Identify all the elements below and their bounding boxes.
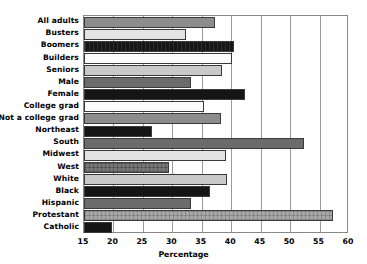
bar-row (84, 210, 347, 222)
bar-row (84, 137, 347, 149)
y-tick-label: All adults (38, 17, 79, 25)
y-tick-label: Hispanic (42, 199, 79, 207)
bar-row (84, 28, 347, 40)
chart-title (0, 0, 367, 10)
x-tick-label: 30 (166, 238, 177, 246)
y-tick-label: Northeast (35, 126, 79, 134)
x-tick-label: 50 (284, 238, 295, 246)
y-tick-label: Catholic (44, 223, 79, 231)
bar[interactable] (84, 150, 226, 161)
bar[interactable] (84, 138, 304, 149)
y-tick-label: Black (55, 187, 79, 195)
x-tick-label: 25 (136, 238, 147, 246)
y-tick-label: White (53, 175, 79, 183)
bar-row (84, 186, 347, 198)
y-tick-label: Female (48, 90, 79, 98)
bar[interactable] (84, 113, 221, 124)
bar-row (84, 125, 347, 137)
x-tick-label: 20 (107, 238, 118, 246)
plot-area (83, 15, 348, 233)
y-tick-label: Male (58, 78, 79, 86)
y-tick-label: College grad (24, 102, 79, 110)
bar-row (84, 64, 347, 76)
bar-row (84, 16, 347, 28)
bar[interactable] (84, 41, 234, 52)
y-tick-label: Seniors (46, 66, 79, 74)
bar[interactable] (84, 17, 215, 28)
y-tick-label: Protestant (32, 211, 79, 219)
bar-row (84, 173, 347, 185)
x-tick-label: 35 (195, 238, 206, 246)
bar-row (84, 77, 347, 89)
bar[interactable] (84, 198, 191, 209)
bar-row (84, 198, 347, 210)
bar-row (84, 101, 347, 113)
bar-row (84, 113, 347, 125)
bar-row (84, 222, 347, 234)
y-tick-label: South (53, 138, 79, 146)
bar-row (84, 40, 347, 52)
y-tick-label: West (57, 163, 79, 171)
bar[interactable] (84, 29, 186, 40)
bar-row (84, 89, 347, 101)
x-tick-label: 55 (313, 238, 324, 246)
bar[interactable] (84, 186, 210, 197)
x-tick-label: 15 (78, 238, 89, 246)
bar[interactable] (84, 89, 245, 100)
y-tick-label: Builders (43, 54, 79, 62)
chart-figure: Percentage All adultsBustersBoomersBuild… (0, 0, 367, 264)
bar[interactable] (84, 53, 232, 64)
y-tick-label: Not a college grad (0, 114, 79, 122)
bar[interactable] (84, 174, 227, 185)
bar-row (84, 149, 347, 161)
y-tick-label: Midwest (42, 150, 79, 158)
bar[interactable] (84, 77, 191, 88)
y-tick-label: Boomers (41, 41, 79, 49)
x-axis-label: Percentage (0, 250, 367, 259)
bar[interactable] (84, 210, 333, 221)
x-tick-label: 40 (225, 238, 236, 246)
bar[interactable] (84, 126, 152, 137)
bar[interactable] (84, 222, 112, 233)
bar-row (84, 52, 347, 64)
bar[interactable] (84, 101, 204, 112)
x-tick-label: 45 (254, 238, 265, 246)
bar-row (84, 161, 347, 173)
bar[interactable] (84, 65, 222, 76)
bar[interactable] (84, 162, 169, 173)
y-tick-label: Busters (46, 29, 79, 37)
x-tick-label: 60 (343, 238, 354, 246)
